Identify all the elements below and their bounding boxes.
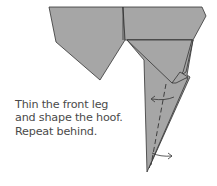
body-block-shape <box>123 7 206 40</box>
instruction-caption: Thin the front leg and shape the hoof. R… <box>15 98 123 138</box>
fold-arrow-right-icon <box>152 153 172 159</box>
left-flap-shape <box>49 7 125 80</box>
caption-line-1: Thin the front leg <box>15 98 123 111</box>
caption-line-2: and shape the hoof. <box>15 111 123 124</box>
origami-diagram <box>0 0 217 186</box>
caption-line-3: Repeat behind. <box>15 125 123 138</box>
